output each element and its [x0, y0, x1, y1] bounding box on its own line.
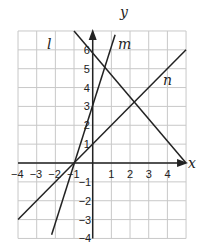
coordinate-plane: −4−3−2−11234654321−1−2−3−4 y x l m n	[0, 0, 211, 251]
svg-text:−2: −2	[79, 195, 92, 207]
svg-text:1: 1	[84, 138, 90, 150]
svg-text:4: 4	[84, 82, 90, 94]
line-l-label: l	[47, 36, 51, 52]
svg-text:3: 3	[146, 168, 152, 180]
svg-text:1: 1	[108, 168, 114, 180]
svg-text:2: 2	[127, 168, 133, 180]
line-n-label: n	[163, 72, 172, 88]
svg-text:−4: −4	[11, 168, 24, 180]
svg-text:6: 6	[84, 44, 90, 56]
line-m-label: m	[118, 36, 131, 52]
plotted-lines	[18, 31, 186, 235]
svg-text:−1: −1	[79, 176, 92, 188]
svg-text:−3: −3	[30, 168, 43, 180]
svg-text:4: 4	[164, 168, 170, 180]
x-axis-label: x	[188, 155, 196, 171]
svg-text:3: 3	[84, 100, 90, 112]
svg-text:−3: −3	[79, 214, 92, 226]
y-axis-label: y	[119, 4, 129, 20]
svg-text:5: 5	[84, 63, 90, 75]
svg-text:−2: −2	[48, 168, 61, 180]
svg-text:−1: −1	[67, 168, 80, 180]
svg-text:2: 2	[84, 119, 90, 131]
svg-text:−4: −4	[79, 232, 92, 244]
